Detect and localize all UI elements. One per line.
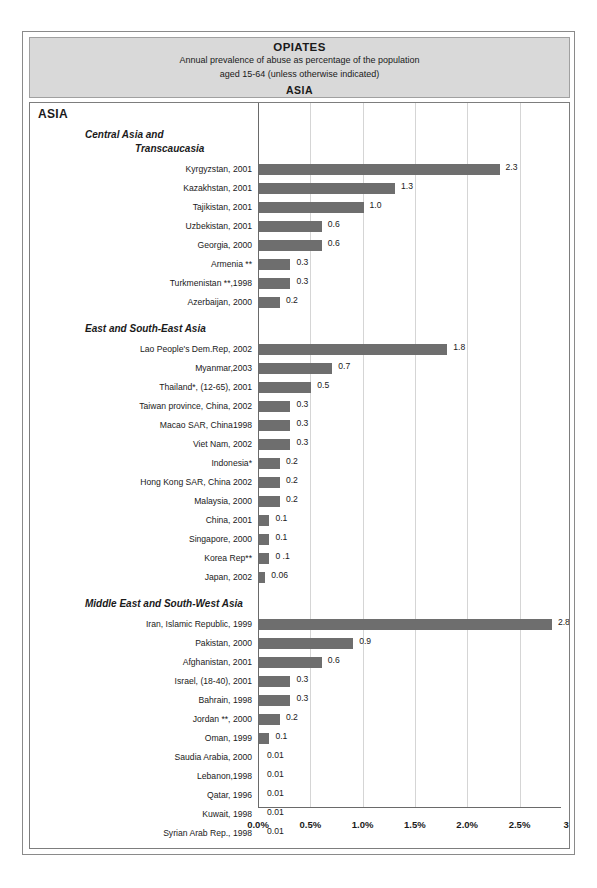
bar-value-label: 0.7 — [338, 361, 350, 371]
bar-value-label: 0.5 — [317, 380, 329, 390]
chart-row: Saudia Arabia, 20000.01 — [30, 749, 569, 768]
category-label: Korea Rep** — [30, 553, 252, 563]
bar-value-label: 0.01 — [267, 769, 284, 779]
bar-value-label: 0.1 — [275, 731, 287, 741]
bar — [259, 534, 269, 545]
chart-row: Turkmenistan **,19980.3 — [30, 275, 569, 294]
bar — [259, 297, 280, 308]
chart-row: Kuwait, 19980.01 — [30, 806, 569, 825]
bar-value-label: 0.3 — [296, 418, 308, 428]
category-label: Taiwan province, China, 2002 — [30, 401, 252, 411]
group-heading: Central Asia and — [85, 129, 164, 140]
chart-row: Azerbaijan, 20000.2 — [30, 294, 569, 313]
chart-row: Syrian Arab Rep., 19980.01 — [30, 825, 569, 844]
bar-value-label: 0.06 — [271, 570, 288, 580]
bar-value-label: 2.3 — [506, 162, 518, 172]
bar-value-label: 0.3 — [296, 437, 308, 447]
bar — [259, 676, 290, 687]
chart-row: Kyrgyzstan, 20012.3 — [30, 161, 569, 180]
chart-row: Bahrain, 19980.3 — [30, 692, 569, 711]
group-heading: East and South-East Asia — [85, 323, 206, 334]
chart-header-banner: OPIATES Annual prevalence of abuse as pe… — [29, 37, 570, 98]
chart-row: China, 20010.1 — [30, 512, 569, 531]
bar — [259, 344, 447, 355]
chart-row: Lao People's Dem.Rep, 20021.8 — [30, 341, 569, 360]
bar-value-label: 0.2 — [286, 456, 298, 466]
bar-value-label: 1.3 — [401, 181, 413, 191]
bar-value-label: 2.8 — [558, 617, 570, 627]
chart-row: Georgia, 20000.6 — [30, 237, 569, 256]
bar — [259, 638, 353, 649]
category-label: Afghanistan, 2001 — [30, 657, 252, 667]
chart-row: Uzbekistan, 20010.6 — [30, 218, 569, 237]
category-label: Israel, (18-40), 2001 — [30, 676, 252, 686]
category-label: Saudia Arabia, 2000 — [30, 752, 252, 762]
chart-region-title: ASIA — [30, 84, 569, 96]
chart-bars-container: ASIA Central Asia andTranscaucasiaKyrgyz… — [30, 103, 569, 808]
category-label: Singapore, 2000 — [30, 534, 252, 544]
bar — [259, 382, 311, 393]
chart-row: Thailand*, (12-65), 20010.5 — [30, 379, 569, 398]
group-heading-line2: Transcaucasia — [135, 143, 204, 154]
group-heading: Middle East and South-West Asia — [85, 598, 243, 609]
category-label: Pakistan, 2000 — [30, 638, 252, 648]
bar — [259, 695, 290, 706]
bar — [259, 259, 290, 270]
bar-value-label: 0.9 — [359, 636, 371, 646]
bar — [259, 183, 395, 194]
bar — [259, 733, 269, 744]
bar-value-label: 0.3 — [296, 276, 308, 286]
category-label: Oman, 1999 — [30, 733, 252, 743]
category-label: Syrian Arab Rep., 1998 — [30, 828, 252, 838]
bar — [259, 572, 265, 583]
category-label: Malaysia, 2000 — [30, 496, 252, 506]
continent-label: ASIA — [38, 107, 68, 121]
chart-row: Jordan **, 20000.2 — [30, 711, 569, 730]
bar — [259, 202, 364, 213]
chart-row: Singapore, 20000.1 — [30, 531, 569, 550]
bar-value-label: 0.01 — [267, 788, 284, 798]
chart-row: Lebanon,19980.01 — [30, 768, 569, 787]
category-label: Georgia, 2000 — [30, 240, 252, 250]
chart-row: Viet Nam, 20020.3 — [30, 436, 569, 455]
bar-value-label: 0.1 — [275, 532, 287, 542]
bar-value-label: 0.6 — [328, 219, 340, 229]
chart-row: Hong Kong SAR, China 20020.2 — [30, 474, 569, 493]
category-label: Lao People's Dem.Rep, 2002 — [30, 344, 252, 354]
category-label: Lebanon,1998 — [30, 771, 252, 781]
chart-row: Indonesia*0.2 — [30, 455, 569, 474]
bar-value-label: 0.3 — [296, 257, 308, 267]
bar-value-label: 1.0 — [370, 200, 382, 210]
bar — [259, 420, 290, 431]
bar — [259, 496, 280, 507]
chart-row: Korea Rep**0 .1 — [30, 550, 569, 569]
chart-row: Malaysia, 20000.2 — [30, 493, 569, 512]
bar — [259, 515, 269, 526]
category-label: Bahrain, 1998 — [30, 695, 252, 705]
bar-value-label: 0.01 — [267, 750, 284, 760]
chart-row: Pakistan, 20000.9 — [30, 635, 569, 654]
bar — [259, 619, 552, 630]
chart-row: Kazakhstan, 20011.3 — [30, 180, 569, 199]
category-label: Macao SAR, China1998 — [30, 420, 252, 430]
bar — [259, 714, 280, 725]
category-label: Indonesia* — [30, 458, 252, 468]
category-label: Kazakhstan, 2001 — [30, 183, 252, 193]
chart-row: Taiwan province, China, 20020.3 — [30, 398, 569, 417]
bar — [259, 164, 500, 175]
bar — [259, 240, 322, 251]
category-label: Iran, Islamic Republic, 1999 — [30, 619, 252, 629]
bar-value-label: 0.1 — [275, 513, 287, 523]
plot-area: 0.0%0.5%1.0%1.5%2.0%2.5%3 % ASIA Central… — [29, 102, 570, 849]
bar-value-label: 0.01 — [267, 826, 284, 836]
category-label: Japan, 2002 — [30, 572, 252, 582]
category-label: Thailand*, (12-65), 2001 — [30, 382, 252, 392]
category-label: Kuwait, 1998 — [30, 809, 252, 819]
category-label: Qatar, 1996 — [30, 790, 252, 800]
chart-row: Oman, 19990.1 — [30, 730, 569, 749]
bar-value-label: 0.6 — [328, 655, 340, 665]
category-label: Azerbaijan, 2000 — [30, 297, 252, 307]
chart-title: OPIATES — [30, 41, 569, 53]
chart-row: Qatar, 19960.01 — [30, 787, 569, 806]
category-label: Myanmar,2003 — [30, 363, 252, 373]
